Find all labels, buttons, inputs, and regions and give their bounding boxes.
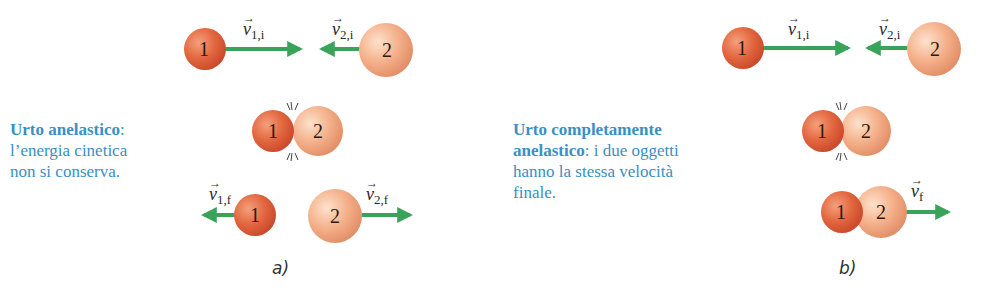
svg-text:→: →	[788, 11, 800, 25]
svg-text:→: →	[332, 11, 344, 25]
svg-text:2: 2	[330, 205, 340, 227]
panel-a-collision: 1 2	[252, 102, 343, 161]
svg-text:2: 2	[382, 39, 392, 61]
panel-b-collision: 1 2	[802, 102, 891, 161]
svg-text:2: 2	[313, 120, 323, 142]
svg-text:→: →	[243, 11, 255, 25]
svg-text:1: 1	[737, 37, 747, 59]
svg-text:1: 1	[836, 201, 846, 223]
svg-text:2: 2	[876, 201, 886, 223]
svg-text:2: 2	[930, 38, 940, 60]
svg-text:→: →	[366, 176, 378, 190]
panel-a-before: 1 2 v1,i → v2,i →	[184, 11, 413, 77]
svg-text:→: →	[209, 176, 221, 190]
svg-text:1: 1	[250, 204, 260, 226]
svg-text:→: →	[911, 173, 923, 187]
svg-text:→: →	[879, 11, 891, 25]
panel-b-before: 1 2 v1,i → v2,i →	[722, 11, 961, 76]
svg-text:1: 1	[817, 120, 827, 142]
panel-b-after: 1 2 vf →	[821, 173, 948, 238]
collision-diagram: 1 2 v1,i → v2,i → 1 2 1 2 v1,f → v2,f →	[0, 0, 983, 291]
svg-text:2: 2	[861, 120, 871, 142]
svg-text:1: 1	[199, 38, 209, 60]
panel-a-after: 1 2 v1,f → v2,f →	[204, 176, 410, 243]
svg-text:1: 1	[268, 120, 278, 142]
